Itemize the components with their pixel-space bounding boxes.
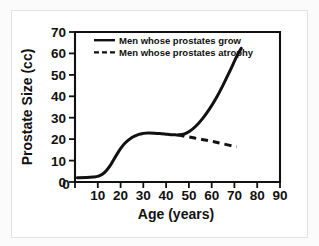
x-tick-label: 60 bbox=[204, 188, 219, 203]
x-tick-label: 10 bbox=[90, 188, 105, 203]
prostate-size-line-chart: 0 10 20 30 40 50 60 70 0 10 20 3 bbox=[0, 0, 319, 246]
figure-frame: 0 10 20 30 40 50 60 70 0 10 20 3 bbox=[0, 0, 319, 246]
x-tick-label: 20 bbox=[113, 188, 128, 203]
y-tick-label: 20 bbox=[51, 132, 66, 147]
x-tick-label: 0 bbox=[62, 177, 70, 192]
y-tick-label: 70 bbox=[51, 25, 66, 40]
x-tick-label: 90 bbox=[272, 188, 287, 203]
series-line-grow bbox=[77, 48, 241, 177]
x-tick-label: 40 bbox=[159, 188, 174, 203]
series-line-atrophy bbox=[178, 135, 237, 147]
x-axis-tick-labels: 0 10 20 30 40 50 60 70 80 90 bbox=[62, 177, 287, 203]
legend-label-atrophy: Men whose prostates atrophy bbox=[119, 47, 254, 58]
y-tick-label: 30 bbox=[51, 111, 66, 126]
y-axis-tick-labels: 0 10 20 30 40 50 60 70 bbox=[51, 25, 66, 190]
x-axis-title: Age (years) bbox=[138, 206, 214, 222]
x-tick-label: 50 bbox=[181, 188, 196, 203]
x-tick-label: 30 bbox=[136, 188, 151, 203]
x-tick-label: 70 bbox=[227, 188, 242, 203]
y-tick-label: 10 bbox=[51, 154, 66, 169]
chart-legend: Men whose prostates grow Men whose prost… bbox=[94, 35, 254, 58]
y-tick-label: 60 bbox=[51, 46, 66, 61]
legend-label-grow: Men whose prostates grow bbox=[119, 35, 242, 46]
y-axis-title: Prostate Size (cc) bbox=[19, 49, 35, 166]
y-tick-label: 40 bbox=[51, 89, 66, 104]
x-tick-label: 80 bbox=[250, 188, 265, 203]
y-tick-label: 50 bbox=[51, 68, 66, 83]
